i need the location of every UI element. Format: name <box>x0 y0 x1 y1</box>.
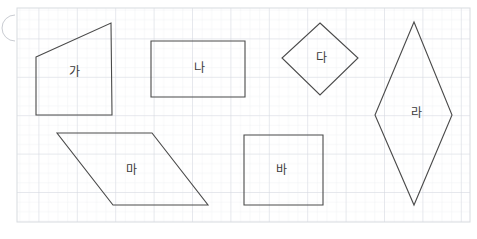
shape-ba-label: 바 <box>276 163 287 177</box>
shapes-diagram: 가나다라마바 <box>0 0 477 239</box>
worksheet-canvas: 가나다라마바 <box>0 0 477 239</box>
shape-ra-label: 라 <box>411 106 422 120</box>
page-corner-arc-icon <box>2 15 15 41</box>
shape-ga-label: 가 <box>69 65 80 79</box>
shape-na-label: 나 <box>194 61 205 75</box>
shape-da-label: 다 <box>316 51 327 65</box>
shape-ma-label: 마 <box>126 163 137 177</box>
